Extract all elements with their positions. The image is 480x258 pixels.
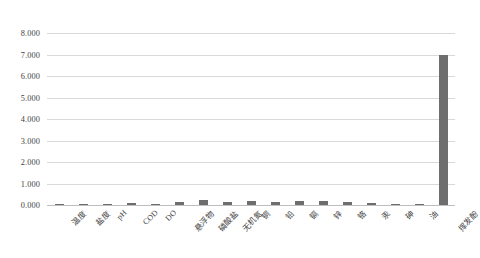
x-axis-tick-label: 铅 [282,208,296,222]
plot-area [47,33,455,205]
x-axis-tick-label: 砷 [402,208,416,222]
x-axis-tick-label: 磷酸盐 [215,208,240,233]
x-axis-tick-label: 锌 [330,208,344,222]
x-axis-tick-label: pH [115,208,129,222]
x-axis-tick-label: 悬浮物 [191,208,216,233]
y-axis-tick-label: 6.000 [21,72,40,81]
x-axis-tick-label: 铬 [354,208,368,222]
y-axis-tick-label: 5.000 [21,93,40,102]
x-axis-tick-label: 汞 [378,208,392,222]
y-axis-tick-label: 8.000 [21,29,40,38]
y-axis-labels: 0.0001.0002.0003.0004.0005.0006.0007.000… [0,33,44,205]
x-axis-tick-label: 温度 [69,208,88,227]
y-axis-tick-label: 3.000 [21,136,40,145]
x-axis-tick-label: 挥发酚 [455,208,480,233]
bar-series [47,33,455,205]
x-axis-tick-label: COD [141,208,160,227]
x-axis-labels: 温度盐度pHCODDO悬浮物磷酸盐无机氮铜铅镉锌铬汞砷油挥发酚 [47,205,455,258]
y-axis-tick-label: 2.000 [21,158,40,167]
y-axis-tick-label: 1.000 [21,179,40,188]
y-axis-tick-label: 7.000 [21,50,40,59]
x-axis-tick-label: 镉 [306,208,320,222]
x-axis-tick-label: DO [164,208,179,223]
bar [439,55,448,206]
x-axis-tick-label: 油 [426,208,440,222]
y-axis-tick-label: 0.000 [21,201,40,210]
y-axis-tick-label: 4.000 [21,115,40,124]
x-axis-tick-label: 盐度 [93,208,112,227]
